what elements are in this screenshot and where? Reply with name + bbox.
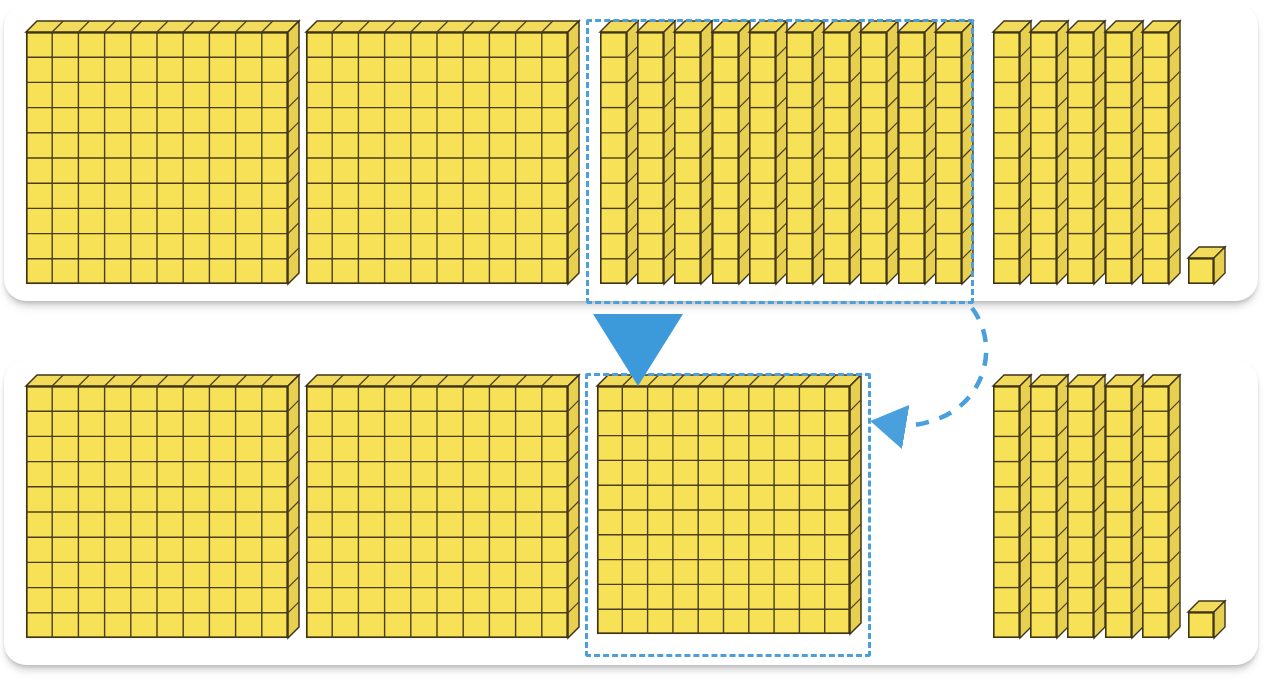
rod-block[interactable] [1105, 386, 1132, 638]
selection-box-ten-rods[interactable] [586, 19, 974, 304]
rod-block[interactable] [1105, 32, 1132, 284]
flat-block[interactable] [26, 32, 288, 284]
unit-block[interactable] [1188, 612, 1214, 638]
flat-block[interactable] [26, 386, 288, 638]
rod-block[interactable] [1030, 32, 1057, 284]
rod-block[interactable] [1142, 386, 1169, 638]
rod-block[interactable] [993, 32, 1020, 284]
unit-block[interactable] [1188, 258, 1214, 284]
flat-block[interactable] [306, 386, 568, 638]
rod-block[interactable] [1142, 32, 1169, 284]
rod-block[interactable] [1030, 386, 1057, 638]
base-ten-blocks-diagram: Base-ten blocks regrouping: ten tens mak… [0, 0, 1283, 690]
rod-block[interactable] [1067, 32, 1094, 284]
rod-block[interactable] [993, 386, 1020, 638]
rod-block[interactable] [1067, 386, 1094, 638]
selection-box-new-flat[interactable] [585, 373, 871, 657]
flat-block[interactable] [306, 32, 568, 284]
